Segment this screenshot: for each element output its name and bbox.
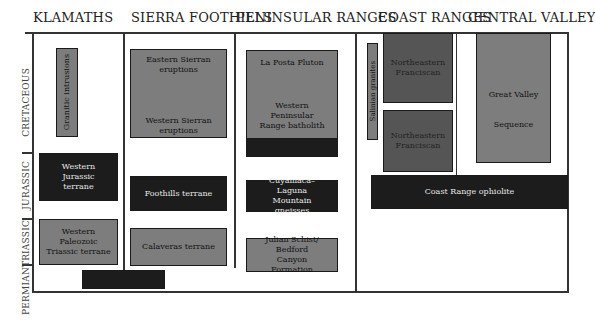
divider-klamaths-sierra xyxy=(123,32,125,270)
unit-coast-range-ophiolite: Coast Range ophiolite xyxy=(371,175,568,209)
unit-label-sequence: Sequence xyxy=(494,120,534,130)
tick-cretaceous-jurassic xyxy=(22,152,33,154)
unit-label: Northeastern Franciscan xyxy=(390,58,446,78)
unit-label: Calaveras terrane xyxy=(142,242,215,252)
period-label-triassic: TRIASSIC xyxy=(21,220,31,267)
unit-granitic-intrusions: Granitic intrusions xyxy=(56,48,78,137)
unit-julian-schist: Julian Schist/ Bedford Canyon Formation xyxy=(246,238,338,272)
period-label-cretaceous: CRETACEOUS xyxy=(21,68,31,137)
unit-great-valley-sequence: Great Valley Sequence xyxy=(476,33,551,163)
unit-western-paleozoic-triassic-terrane: Western Paleozoic Triassic terrane xyxy=(39,219,118,265)
divider-sierra-peninsular xyxy=(234,32,236,268)
bottom-frame-line xyxy=(32,291,569,293)
unit-northeastern-franciscan-upper: Northeastern Franciscan xyxy=(383,33,453,103)
right-frame-line xyxy=(567,32,569,293)
unit-label-great-valley: Great Valley xyxy=(489,90,539,100)
unit-label-eastern-sierran: Eastern Sierran eruptions xyxy=(131,55,226,75)
unit-peninsular-batholith: La Posta Pluton Western Peninsular Range… xyxy=(246,50,338,139)
unit-label-western-sierran: Western Sierran eruptions xyxy=(131,116,226,136)
unit-label-western-peninsular: Western Peninsular Range batholith xyxy=(247,101,337,131)
unit-label: Julian Schist/ Bedford Canyon Formation xyxy=(265,235,319,275)
unit-label: Western Paleozoic Triassic terrane xyxy=(46,227,111,257)
unit-foothills-terrane: Foothills terrane xyxy=(130,176,227,211)
divider-coast-central xyxy=(456,32,457,175)
unit-label: Salinian granites xyxy=(368,61,378,121)
unit-label: Cuyamaca–Laguna Mountain gneisses xyxy=(261,176,323,216)
unit-peninsular-dark-strip xyxy=(246,138,338,157)
unit-western-jurassic-terrane: Western Jurassic terrane xyxy=(39,153,118,201)
period-label-jurassic: JURASSIC xyxy=(21,161,31,210)
unit-cuyamaca-laguna-gneisses: Cuyamaca–Laguna Mountain gneisses xyxy=(246,180,338,212)
column-header-klamaths: KLAMATHS xyxy=(33,10,113,25)
unit-label: Coast Range ophiolite xyxy=(425,187,515,197)
unit-northeastern-franciscan-lower: Northeastern Franciscan xyxy=(383,110,453,172)
column-header-central-valley: CENTRAL VALLEY xyxy=(468,10,595,25)
time-axis-line xyxy=(32,32,34,293)
unit-permian-dark-box xyxy=(82,270,165,289)
unit-label: Foothills terrane xyxy=(145,189,213,199)
unit-sierran-eruptions: Eastern Sierran eruptions Western Sierra… xyxy=(130,49,227,138)
unit-label: Granitic intrusions xyxy=(62,54,72,130)
period-label-permian: PERMIAN xyxy=(21,267,31,315)
unit-label: Northeastern Franciscan xyxy=(390,131,446,151)
divider-peninsular-coast xyxy=(355,32,357,293)
unit-label-la-posta-pluton: La Posta Pluton xyxy=(260,58,323,68)
unit-calaveras-terrane: Calaveras terrane xyxy=(130,228,227,266)
unit-label: Western Jurassic terrane xyxy=(48,162,109,192)
column-header-peninsular-ranges: PENINSULAR RANGES xyxy=(236,10,397,25)
unit-salinian-granites: Salinian granites xyxy=(367,43,378,140)
